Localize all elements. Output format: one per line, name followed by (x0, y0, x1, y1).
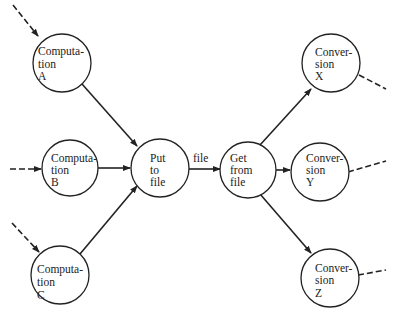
outgoing-edge-x (359, 75, 386, 89)
dataflow-diagram: file Computa- tion A Computa- tion B Com… (0, 0, 394, 314)
node-conversion-y: Conver- sion Y (291, 143, 349, 201)
svg-text:file: file (230, 176, 245, 188)
edge-compC-put (80, 186, 137, 254)
svg-text:sion: sion (306, 164, 325, 176)
svg-text:Conver-: Conver- (315, 46, 353, 58)
edge-get-convZ (260, 194, 311, 253)
node-computation-b: Computa- tion B (42, 140, 98, 196)
outgoing-edge-z (358, 270, 386, 275)
svg-text:Computa-: Computa- (37, 263, 83, 276)
svg-text:Get: Get (230, 152, 247, 164)
edge-get-convX (260, 89, 311, 145)
svg-text:sion: sion (315, 58, 334, 70)
svg-text:from: from (230, 164, 252, 176)
svg-text:Z: Z (315, 287, 322, 299)
svg-text:X: X (315, 70, 324, 82)
node-computation-c: Computa- tion C (31, 246, 89, 304)
node-conversion-x: Conver- sion X (302, 34, 360, 92)
svg-text:A: A (38, 70, 47, 82)
incoming-edge-c (12, 223, 39, 252)
edge-compA-put (82, 84, 137, 146)
svg-text:Computa-: Computa- (38, 45, 84, 58)
incoming-edge-a (13, 5, 38, 36)
svg-text:Conver-: Conver- (306, 152, 344, 164)
svg-text:B: B (51, 176, 59, 188)
outgoing-edge-y (348, 161, 386, 172)
svg-text:Conver-: Conver- (315, 262, 353, 274)
svg-text:Y: Y (306, 176, 315, 188)
edge-label-file: file (193, 152, 208, 164)
svg-text:sion: sion (315, 274, 334, 286)
svg-text:tion: tion (51, 164, 69, 176)
node-computation-a: Computa- tion A (33, 34, 91, 92)
svg-text:tion: tion (38, 58, 56, 70)
svg-text:file: file (150, 176, 165, 188)
node-get-from-file: Get from file (220, 142, 276, 198)
node-put-to-file: Put to file (131, 139, 189, 197)
svg-text:C: C (37, 289, 45, 301)
svg-text:to: to (150, 164, 159, 176)
svg-text:tion: tion (37, 276, 55, 288)
node-conversion-z: Conver- sion Z (301, 249, 359, 307)
svg-text:Put: Put (150, 152, 166, 164)
